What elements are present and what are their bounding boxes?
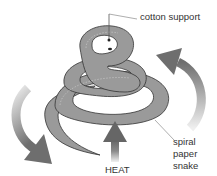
- spiral-label-line2: paper: [173, 148, 213, 160]
- heat-label: HEAT: [105, 164, 130, 176]
- spiral-label-line1: spiral: [173, 136, 213, 148]
- spiral-label-line3: snake: [173, 160, 213, 172]
- spiral-leader: [155, 120, 174, 140]
- spiral-snake-diagram: cotton support spiral paper snake HEAT: [0, 0, 217, 176]
- cotton-knot: [108, 39, 111, 42]
- heat-arrow: [103, 121, 127, 162]
- spiral-paper-snake-label: spiral paper snake: [173, 136, 213, 172]
- cotton-support-label: cotton support: [140, 11, 200, 23]
- snake-eye: [108, 48, 112, 50]
- left-convection-arrow: [16, 88, 52, 164]
